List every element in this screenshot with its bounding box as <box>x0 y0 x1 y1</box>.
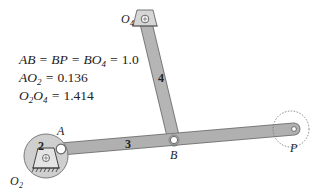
equation-o2o4: O2O4 = 1.414 <box>19 89 94 103</box>
point-p-icon <box>292 127 297 132</box>
eq-text: = <box>48 88 64 103</box>
eq-text: = <box>106 52 122 67</box>
eq-text: AO <box>19 70 37 85</box>
svg-text:O: O <box>121 12 130 26</box>
link-4-number: 4 <box>158 71 164 85</box>
link-3-number: 3 <box>125 137 131 151</box>
fourbar-linkage-diagram: 2 3 4 A B P O 4 O 2 AB = BP = BO4 = 1.0 … <box>0 0 316 193</box>
eq-value: 1.414 <box>63 88 93 103</box>
label-o4: O 4 <box>121 12 134 28</box>
label-b: B <box>170 148 178 162</box>
eq-text: AB = BP = BO <box>19 52 101 67</box>
pin-b-icon <box>169 135 179 145</box>
crank-disk-link-2 <box>24 134 68 178</box>
eq-value: 0.136 <box>57 70 87 85</box>
equation-ao2: AO2 = 0.136 <box>19 71 88 85</box>
svg-text:2: 2 <box>19 181 23 190</box>
eq-text: O <box>19 88 29 103</box>
pivot-o4-icon <box>141 15 149 23</box>
label-p: P <box>289 141 298 155</box>
eq-text: = <box>42 70 58 85</box>
eq-text: O <box>33 88 43 103</box>
eq-value: 1.0 <box>122 52 139 67</box>
pivot-o2-icon <box>43 155 50 162</box>
equation-link-lengths: AB = BP = BO4 = 1.0 <box>19 53 139 67</box>
svg-text:O: O <box>10 174 19 188</box>
label-o2: O 2 <box>10 174 23 190</box>
label-a: A <box>56 124 65 138</box>
pin-a-icon <box>56 144 66 154</box>
svg-text:4: 4 <box>130 19 134 28</box>
ground-pivot-o4 <box>132 10 158 26</box>
link-2-number: 2 <box>38 139 44 153</box>
